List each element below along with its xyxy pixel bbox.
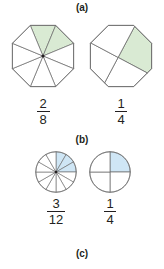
fraction-denominator: 8 <box>37 112 50 126</box>
figure-row-b: 3 12 1 4 <box>0 150 164 242</box>
center-dot <box>41 54 44 57</box>
fraction-numerator: 3 <box>47 197 65 211</box>
fraction-numerator: 2 <box>37 97 50 111</box>
section-label-a: (a) <box>0 2 164 13</box>
fraction-denominator: 12 <box>47 212 65 226</box>
fraction-1-4-b: 1 4 <box>82 197 138 228</box>
figure-page: (a) 2 8 <box>0 0 164 269</box>
circle-quarters-icon <box>88 150 132 194</box>
fraction-denominator: 4 <box>104 212 116 226</box>
figure-row-a: 2 8 1 4 <box>0 18 164 130</box>
fraction-numerator: 1 <box>115 97 127 111</box>
fraction-2-8: 2 8 <box>4 97 82 128</box>
circle-twelfths-icon <box>34 150 78 194</box>
fraction-1-4-a: 1 4 <box>82 97 160 128</box>
octagon-quarters-icon <box>85 18 157 94</box>
section-label-c: (c) <box>0 248 164 259</box>
figure-circle-quarters: 1 4 <box>82 150 138 228</box>
fraction-3-12: 3 12 <box>28 197 84 228</box>
octagon-eighths-icon <box>7 18 79 94</box>
figure-octagon-eighths: 2 8 <box>4 18 82 128</box>
section-label-b: (b) <box>0 134 164 145</box>
figure-octagon-quarters: 1 4 <box>82 18 160 128</box>
fraction-numerator: 1 <box>104 197 116 211</box>
center-dot <box>55 171 58 174</box>
fraction-denominator: 4 <box>115 112 127 126</box>
figure-circle-twelfths: 3 12 <box>28 150 84 228</box>
